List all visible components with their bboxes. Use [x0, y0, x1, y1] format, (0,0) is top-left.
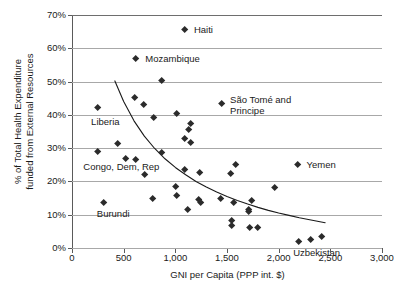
data-point-marker [231, 161, 239, 169]
y-tick-mark [68, 215, 72, 216]
x-tick-label: 500 [101, 253, 147, 263]
data-point-marker [158, 149, 166, 157]
scatter-chart: HaitiMozambiqueSão Tomé and PrincipeLibe… [0, 0, 406, 293]
gridline [72, 181, 382, 182]
data-point-marker [100, 199, 108, 207]
x-tick-label: 2,000 [256, 253, 302, 263]
data-point-marker [181, 26, 189, 34]
y-tick-mark [68, 15, 72, 16]
gridline [72, 15, 382, 16]
plot-area: HaitiMozambiqueSão Tomé and PrincipeLibe… [72, 15, 382, 248]
data-point-marker [184, 206, 192, 214]
data-point-marker [94, 103, 102, 111]
x-tick-label: 1,500 [204, 253, 250, 263]
data-point-marker [185, 126, 193, 134]
data-point-marker [158, 77, 166, 85]
gridline [72, 82, 382, 83]
gridline [72, 48, 382, 49]
point-label: Mozambique [145, 53, 199, 64]
data-point-marker [197, 199, 205, 207]
y-tick-mark [68, 82, 72, 83]
data-point-marker [172, 183, 180, 191]
y-tick-mark [68, 115, 72, 116]
point-label: Liberia [91, 116, 120, 127]
data-point-marker [228, 222, 236, 230]
point-label: Yemen [307, 159, 336, 170]
x-tick-label: 0 [49, 253, 95, 263]
data-point-marker [217, 195, 225, 203]
data-point-marker [318, 233, 326, 241]
data-point-marker [248, 197, 256, 205]
data-point-marker [271, 184, 279, 192]
data-point-marker [181, 166, 189, 174]
data-point-marker [227, 170, 235, 178]
data-point-marker [173, 192, 181, 200]
x-tick-label: 2,500 [307, 253, 353, 263]
y-tick-label: 0% [26, 243, 66, 253]
data-point-marker [132, 55, 140, 63]
data-point-marker [294, 238, 302, 246]
data-point-marker [307, 236, 315, 244]
point-label: Haiti [194, 24, 213, 35]
data-point-marker [173, 110, 181, 118]
data-point-marker [254, 224, 262, 232]
data-point-marker [229, 199, 237, 207]
data-point-marker [114, 140, 122, 148]
point-label: Congo, Dem, Rep [83, 161, 159, 172]
data-point-marker [149, 195, 157, 203]
data-point-marker [131, 94, 139, 102]
data-point-marker [246, 224, 254, 232]
gridline [72, 148, 382, 149]
y-tick-mark [68, 181, 72, 182]
point-label: São Tomé and Principe [230, 94, 291, 116]
point-label: Burundi [97, 208, 130, 219]
data-point-marker [196, 169, 204, 177]
data-point-marker [187, 139, 195, 147]
x-axis-title: GNI per Capita (PPP int. $) [72, 269, 383, 280]
data-point-marker [293, 161, 301, 169]
x-tick-label: 3,000 [359, 253, 405, 263]
y-tick-mark [68, 148, 72, 149]
data-point-marker [139, 101, 147, 109]
x-tick-label: 1,000 [152, 253, 198, 263]
y-tick-mark [68, 48, 72, 49]
y-axis-title: % of Total Health Expenditure funded fro… [12, 2, 35, 242]
data-point-marker [218, 100, 226, 108]
